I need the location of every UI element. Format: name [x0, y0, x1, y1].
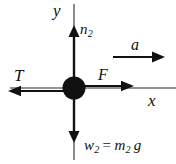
applied-force-label: F — [98, 67, 108, 83]
weight-subscript: 2 — [94, 144, 99, 155]
normal-force-subscript: 2 — [88, 28, 93, 39]
normal-force-symbol: n — [80, 21, 88, 37]
equals-sign: = — [103, 137, 111, 153]
gravity-symbol: g — [134, 137, 142, 153]
particle-mass-2 — [63, 77, 86, 100]
x-axis-label: x — [148, 92, 156, 109]
acceleration-vector — [113, 52, 165, 63]
mass-subscript: 2 — [125, 144, 130, 155]
acceleration-label: a — [131, 37, 139, 53]
y-axis-label: y — [53, 2, 61, 19]
normal-force-label: n2 — [80, 22, 93, 39]
tension-force-label: T — [14, 67, 23, 84]
weight-symbol: w — [84, 137, 94, 153]
mass-symbol: m — [114, 137, 125, 153]
weight-equation-label: w2=m2g — [84, 138, 141, 155]
free-body-diagram: y x n2 a T F w2=m2g — [0, 0, 176, 164]
